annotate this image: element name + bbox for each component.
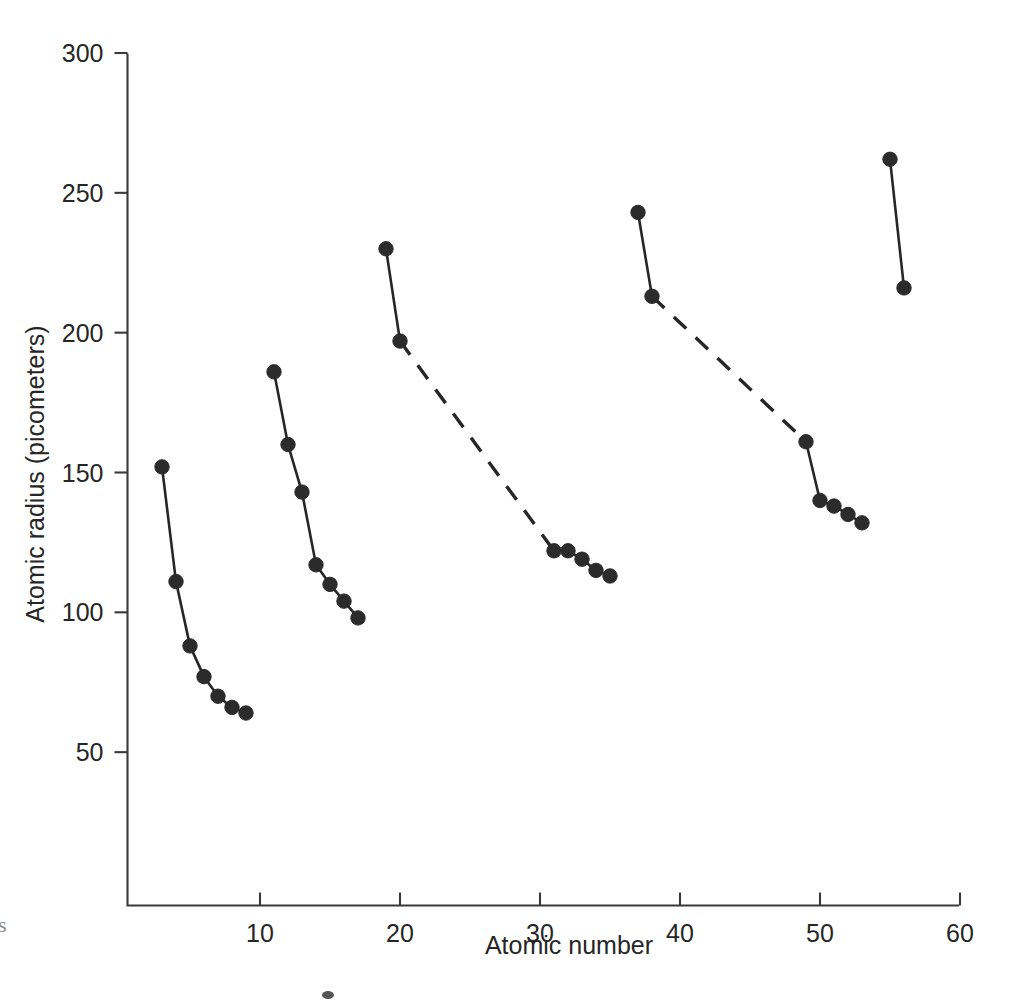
axis-spine: [128, 55, 959, 906]
data-point-z4: [169, 574, 183, 588]
data-point-z9: [239, 706, 253, 720]
y-axis-title: Atomic radius (picometers): [21, 325, 49, 622]
data-point-z8: [225, 700, 239, 714]
y-tick-label-300: 300: [62, 39, 104, 67]
data-point-z11: [267, 365, 281, 379]
data-point-z7: [211, 689, 225, 703]
series-8: [890, 159, 904, 288]
data-point-z53: [855, 516, 869, 530]
data-point-z16: [337, 594, 351, 608]
data-point-z38: [645, 289, 659, 303]
data-point-z50: [813, 493, 827, 507]
x-tick-label-20: 20: [386, 919, 414, 947]
data-point-z56: [897, 281, 911, 295]
x-axis-title: Atomic number: [485, 931, 653, 959]
y-tick-label-250: 250: [62, 179, 104, 207]
data-point-z37: [631, 205, 645, 219]
series-2: [386, 249, 400, 341]
atomic-radius-chart-figure: 50100150200250300102030405060 Atomic num…: [0, 0, 1012, 1000]
series-line-1: [274, 372, 358, 618]
series-line-3: [400, 341, 554, 551]
data-point-z5: [183, 639, 197, 653]
data-point-z20: [393, 334, 407, 348]
x-tick-label-60: 60: [946, 919, 974, 947]
chart-series-group: [155, 152, 911, 720]
series-line-6: [652, 296, 806, 441]
series-line-5: [638, 212, 652, 296]
scan-edge-artifact-glyph: s: [0, 912, 7, 937]
data-point-z3: [155, 460, 169, 474]
series-1: [274, 372, 358, 618]
series-6: [652, 296, 806, 441]
data-point-z52: [841, 507, 855, 521]
data-point-z51: [827, 499, 841, 513]
chart-plot-area: 50100150200250300102030405060 Atomic num…: [0, 0, 1012, 1000]
data-point-z15: [323, 577, 337, 591]
data-point-z55: [883, 152, 897, 166]
series-line-8: [890, 159, 904, 288]
y-tick-label-150: 150: [62, 459, 104, 487]
y-tick-label-50: 50: [76, 738, 104, 766]
y-tick-label-100: 100: [62, 598, 104, 626]
data-point-z17: [351, 611, 365, 625]
x-tick-label-40: 40: [666, 919, 694, 947]
chart-tick-labels: 50100150200250300102030405060: [62, 39, 974, 946]
data-point-z12: [281, 437, 295, 451]
chart-tick-marks: [115, 53, 961, 905]
data-point-z6: [197, 669, 211, 683]
x-tick-label-50: 50: [806, 919, 834, 947]
y-tick-label-200: 200: [62, 319, 104, 347]
data-point-z49: [799, 435, 813, 449]
chart-axes: [128, 55, 959, 906]
scan-speck-artifact: [322, 991, 334, 999]
data-point-z14: [309, 558, 323, 572]
series-5: [638, 212, 652, 296]
series-3: [400, 341, 554, 551]
data-point-z13: [295, 485, 309, 499]
data-point-z19: [379, 242, 393, 256]
data-point-z35: [603, 569, 617, 583]
data-point-z32: [561, 544, 575, 558]
series-line-2: [386, 249, 400, 341]
x-tick-label-10: 10: [246, 919, 274, 947]
data-point-z31: [547, 544, 561, 558]
data-point-z34: [589, 563, 603, 577]
data-point-z33: [575, 552, 589, 566]
